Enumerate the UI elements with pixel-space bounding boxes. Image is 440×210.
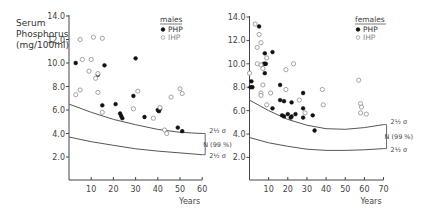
data-point-php (103, 63, 107, 67)
y-tick-label: 8.0 (52, 83, 65, 92)
x-axis-label: Years (359, 197, 381, 206)
annotation-lower-sigma: 2½ σ (391, 146, 408, 154)
data-point-ihp (261, 66, 265, 70)
y-tick-label: 4.0 (52, 130, 65, 139)
legend-marker-ihp (356, 36, 360, 40)
data-point-php (278, 83, 282, 87)
data-point-ihp (261, 83, 265, 87)
data-point-php (278, 98, 282, 102)
x-tick-label: 40 (321, 185, 331, 194)
data-point-ihp (321, 103, 325, 107)
y-tick-label: 12.0 (228, 36, 246, 45)
data-point-ihp (357, 78, 361, 82)
legend-title: females (355, 15, 385, 24)
y-tick-label: 2.0 (52, 153, 65, 162)
data-point-ihp (269, 91, 273, 95)
data-point-php (264, 62, 268, 66)
annotation-lower-sigma: 2½ σ (209, 152, 226, 160)
data-point-ihp (255, 45, 259, 49)
x-tick-label: 30 (302, 185, 312, 194)
data-point-ihp (253, 22, 257, 26)
data-point-php (176, 126, 180, 130)
y-tick-label: 10.0 (47, 59, 65, 68)
reference-curve (69, 137, 202, 155)
y-tick-label: 10.0 (228, 60, 246, 69)
data-point-ihp (78, 37, 82, 41)
y-tick-label: 6.0 (233, 107, 246, 116)
x-tick-label: 40 (153, 185, 163, 194)
data-point-ihp (284, 68, 288, 72)
data-point-php (100, 103, 104, 107)
annotation-normal-range: N (99 %) (385, 133, 414, 141)
y-tick-label: 8.0 (233, 83, 246, 92)
annotation-upper-sigma: 2½ σ (391, 118, 408, 126)
data-point-ihp (151, 116, 155, 120)
data-point-ihp (131, 107, 135, 111)
legend-label-ihp: IHP (363, 33, 376, 42)
data-point-php (74, 61, 78, 65)
data-point-ihp (100, 36, 104, 40)
data-point-ihp (259, 41, 263, 45)
data-point-php (301, 116, 305, 120)
data-point-ihp (78, 88, 82, 92)
legend-label-ihp: IHP (168, 33, 181, 42)
data-point-ihp (136, 89, 140, 93)
x-tick-label: 60 (197, 185, 207, 194)
data-point-ihp (165, 131, 169, 135)
data-point-php (271, 106, 275, 110)
data-point-php (294, 112, 298, 116)
y-tick-label: 4.0 (233, 130, 246, 139)
data-point-ihp (80, 57, 84, 61)
chart-females: 2.04.06.08.010.012.014.010203040506070Ye… (228, 13, 413, 206)
data-point-ihp (247, 71, 251, 75)
data-point-ihp (74, 93, 78, 97)
legend-marker-php (161, 28, 165, 32)
y-axis-label: Serum Phosphorus (mg/100ml) (16, 18, 69, 51)
data-point-php (120, 116, 124, 120)
data-point-php (290, 101, 294, 105)
x-tick-label: 10 (264, 185, 274, 194)
data-point-php (290, 115, 294, 119)
data-point-ihp (89, 57, 93, 61)
data-point-ihp (96, 90, 100, 94)
reference-curve (250, 100, 384, 129)
data-point-php (180, 129, 184, 133)
y-tick-label: 14.0 (228, 13, 246, 22)
chart-males: 2.04.06.08.010.012.014.0102030405060Year… (47, 12, 232, 206)
x-tick-label: 20 (108, 185, 118, 194)
y-axis-label-line-2: Phosphorus (16, 29, 69, 40)
reference-curve (250, 138, 384, 151)
data-point-ihp (257, 32, 261, 36)
y-tick-label: 2.0 (233, 153, 246, 162)
y-tick-label: 6.0 (52, 106, 65, 115)
data-point-ihp (180, 91, 184, 95)
data-point-ihp (364, 112, 368, 116)
data-point-ihp (297, 98, 301, 102)
annotation-upper-sigma: 2½ σ (209, 127, 226, 135)
data-point-php (313, 129, 317, 133)
x-tick-label: 30 (131, 185, 141, 194)
x-tick-label: 10 (86, 185, 96, 194)
data-point-php (132, 94, 136, 98)
legend-marker-php (356, 28, 360, 32)
data-point-php (263, 51, 267, 55)
data-point-ihp (320, 87, 324, 91)
data-point-ihp (178, 87, 182, 91)
x-tick-label: 60 (359, 185, 369, 194)
data-point-ihp (169, 95, 173, 99)
data-point-ihp (359, 111, 363, 115)
data-point-php (251, 85, 255, 89)
annotation-normal-range: N (99 %) (203, 141, 232, 149)
y-axis-label-line-3: (mg/100ml) (16, 40, 69, 51)
data-point-ihp (100, 110, 104, 114)
x-tick-label: 50 (340, 185, 350, 194)
data-point-php (143, 115, 147, 119)
data-point-php (301, 106, 305, 110)
figure: Serum Phosphorus (mg/100ml) 2.04.06.08.0… (0, 0, 440, 210)
data-point-ihp (359, 105, 363, 109)
data-point-php (311, 113, 315, 117)
data-point-php (286, 112, 290, 116)
data-point-php (271, 50, 275, 54)
data-point-ihp (158, 106, 162, 110)
data-point-ihp (91, 35, 95, 39)
